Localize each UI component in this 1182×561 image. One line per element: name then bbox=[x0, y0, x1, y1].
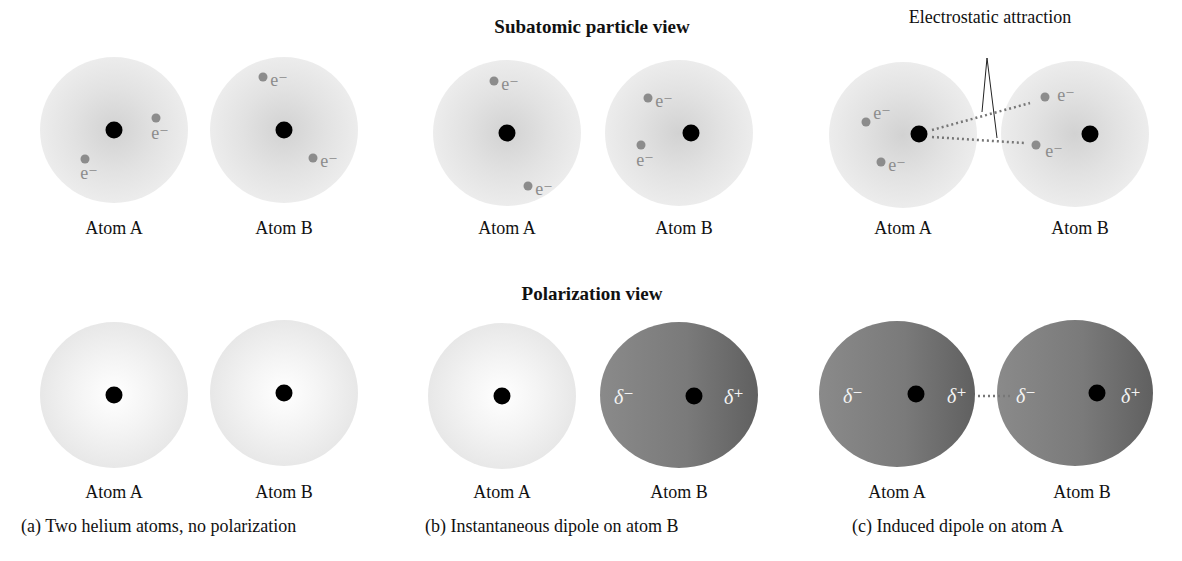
annotation-pointer bbox=[982, 58, 987, 112]
dotted-attraction-line bbox=[932, 103, 1030, 130]
annotation-pointer bbox=[987, 58, 997, 138]
dotted-attraction-line bbox=[932, 137, 1024, 143]
attraction-lines bbox=[0, 0, 1182, 561]
